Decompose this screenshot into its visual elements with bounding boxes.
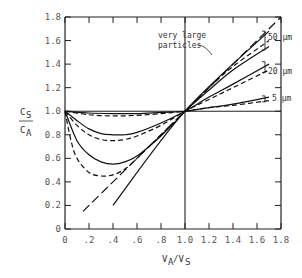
annotation-very-large-line1: very large <box>158 31 206 40</box>
x-tick-label: 1.4 <box>225 235 241 245</box>
y-tick-label: 1.6 <box>45 36 61 46</box>
y-tick-label: 0.2 <box>45 200 61 210</box>
group-brackets <box>262 31 265 102</box>
x-tick-label: .6 <box>132 235 143 245</box>
x-axis-label: V A /V S <box>162 254 190 267</box>
x-label-slash-v2: /V <box>173 254 184 264</box>
x-tick-label: 1.2 <box>201 235 217 245</box>
series-line-2 <box>65 46 269 164</box>
x-tick-label: .2 <box>84 235 95 245</box>
y-label-numerator-sub: S <box>26 110 31 120</box>
y-tick-label: 0.6 <box>45 153 61 163</box>
x-tick-label: 1.6 <box>249 235 265 245</box>
x-tick-label: .8 <box>156 235 167 245</box>
y-label-denominator: C <box>20 125 25 135</box>
x-tick-label: 1.0 <box>177 235 193 245</box>
annotation-5um: 5 µm <box>272 94 291 103</box>
y-label-denominator-sub: A <box>26 128 32 138</box>
chart: 0.2.4.6.81.01.21.41.61.800.20.40.60.81.0… <box>0 0 302 278</box>
x-tick-label: 1.8 <box>273 235 289 245</box>
y-tick-label: 1.8 <box>45 12 61 22</box>
series-line-1 <box>113 31 269 205</box>
x-tick-label: .4 <box>108 235 119 245</box>
annotation-20um: 20 µm <box>268 67 292 76</box>
y-tick-label: 1.4 <box>45 59 61 69</box>
series-line-3 <box>65 41 269 177</box>
y-tick-label: 0.4 <box>45 177 61 187</box>
series-line-4 <box>65 64 269 135</box>
x-label-sub2: S <box>185 257 190 267</box>
x-tick-label: 0 <box>62 235 67 245</box>
y-label-numerator: C <box>20 107 25 117</box>
annotation-50um: 50 µm <box>268 33 292 42</box>
y-tick-label: 1.2 <box>45 83 61 93</box>
y-tick-label: 1.0 <box>45 106 61 116</box>
annotation-very-large-line2: particles <box>158 41 202 50</box>
y-axis-label: C S C A <box>19 107 33 138</box>
y-tick-label: 0 <box>56 224 61 234</box>
y-tick-label: 0.8 <box>45 130 61 140</box>
